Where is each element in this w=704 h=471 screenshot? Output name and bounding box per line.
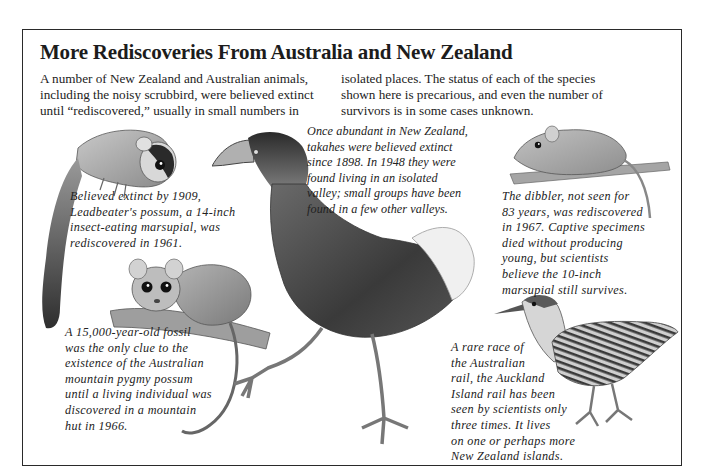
caption-line: insect-eating marsupial, was [70, 220, 235, 236]
caption-line: Once abundant in New Zealand, [307, 124, 468, 140]
caption-mountain-pygmy-possum: A 15,000-year-old fossil was the only cl… [65, 325, 212, 434]
caption-line: The dibbler, not seen for [502, 189, 645, 205]
caption-leadbeaters-possum: Believed extinct by 1909, Leadbeater's p… [70, 189, 235, 251]
caption-line: seen by scientists only [451, 402, 575, 418]
caption-line: valley; small groups have been [307, 186, 468, 202]
intro-paragraph-right: isolated places. The status of each of t… [341, 71, 603, 119]
caption-line: hut in 1966. [65, 419, 212, 435]
caption-line: since 1898. In 1948 they were [307, 155, 468, 171]
caption-line: discovered in a mountain [65, 403, 212, 419]
caption-line: A rare race of [451, 340, 575, 356]
page-title: More Rediscoveries From Australia and Ne… [40, 40, 512, 65]
caption-line: mountain pygmy possum [65, 372, 212, 388]
caption-line: marsupial still survives. [502, 283, 645, 299]
caption-auckland-island-rail: A rare race of the Australian rail, the … [451, 340, 575, 465]
caption-line: A 15,000-year-old fossil [65, 325, 212, 341]
caption-line: rail, the Auckland [451, 371, 575, 387]
caption-line: believe the 10-inch [502, 267, 645, 283]
caption-line: until a living individual was [65, 387, 212, 403]
intro-line: including the noisy scrubbird, were beli… [40, 87, 314, 103]
caption-line: 83 years, was rediscovered [502, 205, 645, 221]
intro-line: until “rediscovered,” usually in small n… [40, 103, 314, 119]
caption-line: New Zealand islands. [451, 449, 575, 465]
caption-line: Leadbeater's possum, a 14-inch [70, 205, 235, 221]
caption-line: takahes were believed extinct [307, 140, 468, 156]
caption-line: young, but scientists [502, 251, 645, 267]
caption-line: three times. It lives [451, 418, 575, 434]
caption-line: rediscovered in 1961. [70, 236, 235, 252]
caption-takahe: Once abundant in New Zealand, takahes we… [307, 124, 468, 218]
intro-paragraph-left: A number of New Zealand and Australian a… [40, 71, 314, 119]
intro-line: isolated places. The status of each of t… [341, 71, 603, 87]
caption-line: died without producing [502, 236, 645, 252]
caption-line: Believed extinct by 1909, [70, 189, 235, 205]
caption-line: in 1967. Captive specimens [502, 220, 645, 236]
caption-line: existence of the Australian [65, 356, 212, 372]
caption-line: on one or perhaps more [451, 434, 575, 450]
caption-line: found in a few other valleys. [307, 202, 468, 218]
caption-line: Island rail has been [451, 387, 575, 403]
intro-line: survivors is in some cases unknown. [341, 103, 603, 119]
intro-line: shown here is precarious, and even the n… [341, 87, 603, 103]
caption-line: the Australian [451, 356, 575, 372]
caption-dibbler: The dibbler, not seen for 83 years, was … [502, 189, 645, 298]
caption-line: found living in an isolated [307, 171, 468, 187]
caption-line: was the only clue to the [65, 341, 212, 357]
intro-line: A number of New Zealand and Australian a… [40, 71, 314, 87]
